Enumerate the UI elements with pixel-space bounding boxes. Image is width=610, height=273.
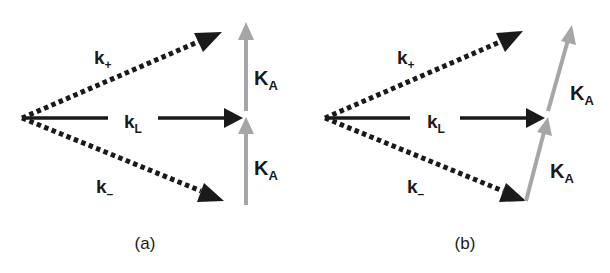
- label-k-minus: k–: [96, 176, 114, 201]
- label-k-L: kL: [427, 111, 445, 136]
- label-K-A-upper: KA: [254, 67, 278, 93]
- label-k-plus: k+: [94, 47, 112, 72]
- label-k-plus: k+: [397, 47, 415, 72]
- k-plus-arrow: [22, 32, 222, 118]
- k-plus-arrow: [325, 31, 523, 118]
- label-k-L: kL: [124, 111, 142, 136]
- caption-b: (b): [455, 234, 476, 253]
- label-K-A-upper: KA: [570, 82, 594, 108]
- k-minus-arrow: [325, 118, 526, 202]
- label-K-A-lower: KA: [550, 160, 574, 186]
- k-minus-arrow: [22, 118, 224, 202]
- K-A-lower-arrow: [238, 117, 254, 205]
- panel-a: k+ kL k– KA KA (a): [22, 22, 278, 253]
- label-k-minus: k–: [407, 176, 425, 201]
- K-A-lower-arrow: [526, 117, 552, 201]
- K-A-upper-arrow: [238, 22, 254, 111]
- panel-b: k+ kL k– KA KA (b): [325, 25, 594, 253]
- caption-a: (a): [135, 234, 156, 253]
- label-K-A-lower: KA: [254, 157, 278, 183]
- wavevector-diagram: k+ kL k– KA KA (a): [0, 0, 610, 273]
